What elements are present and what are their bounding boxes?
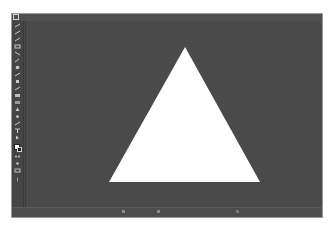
swap-colors-icon[interactable] — [14, 154, 21, 159]
status-marker-icon — [157, 210, 161, 214]
tools-panel — [12, 21, 24, 209]
quick-mask-icon[interactable] — [14, 161, 21, 166]
blur-icon[interactable] — [14, 107, 21, 112]
eyedropper-icon[interactable] — [14, 58, 21, 63]
status-marker-icon — [122, 210, 126, 214]
background-color-swatch[interactable] — [17, 147, 22, 152]
move-icon[interactable] — [14, 23, 21, 28]
brush-icon[interactable] — [14, 72, 21, 77]
document-canvas[interactable] — [26, 21, 322, 208]
triangle-shape[interactable] — [26, 21, 324, 210]
stamp-icon[interactable] — [14, 79, 21, 84]
bandage-icon[interactable] — [14, 65, 21, 70]
status-bar — [12, 207, 322, 217]
more-tools-icon[interactable] — [14, 177, 21, 182]
path-select-icon[interactable] — [14, 135, 21, 140]
crop-icon[interactable] — [14, 51, 21, 56]
home-icon[interactable] — [13, 14, 19, 20]
marquee-icon[interactable] — [14, 30, 21, 35]
history-brush-icon[interactable] — [14, 86, 21, 91]
gradient-icon[interactable] — [14, 100, 21, 105]
lasso-icon[interactable] — [14, 37, 21, 42]
status-marker-icon — [236, 210, 240, 214]
wand-icon[interactable] — [14, 44, 21, 49]
editor-window — [11, 13, 323, 218]
eraser-icon[interactable] — [14, 93, 21, 98]
screen-mode-icon[interactable] — [14, 168, 21, 173]
pen-icon[interactable] — [14, 121, 21, 126]
dodge-icon[interactable] — [14, 114, 21, 119]
type-icon[interactable] — [14, 128, 21, 133]
